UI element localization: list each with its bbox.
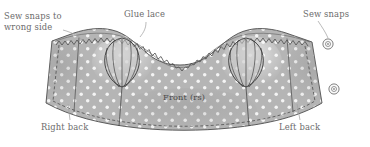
- label-front-rs: Front (rs): [163, 92, 205, 102]
- leader-sew-snaps: [318, 21, 328, 38]
- snap-top: [323, 39, 333, 49]
- label-sew-snaps-wrong-side-line2: wrong side: [4, 22, 52, 32]
- label-sew-snaps: Sew snaps: [303, 9, 349, 20]
- label-left-back: Left back: [279, 122, 320, 133]
- label-glue-lace: Glue lace: [124, 9, 165, 20]
- label-sew-snaps-wrong-side: Sew snaps towrong side: [4, 11, 62, 32]
- snap-bottom: [329, 84, 339, 94]
- leader-glue-lace: [140, 22, 146, 37]
- label-right-back: Right back: [41, 122, 88, 133]
- pattern-diagram-page: Sew snaps towrong side Glue lace Sew sna…: [0, 0, 370, 147]
- label-sew-snaps-wrong-side-line1: Sew snaps to: [4, 11, 62, 21]
